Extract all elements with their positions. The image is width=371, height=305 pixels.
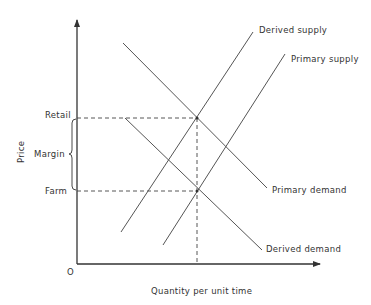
retail-equilibrium-point bbox=[196, 117, 199, 120]
derived-supply-label: Derived supply bbox=[259, 25, 327, 35]
derived-supply-curve bbox=[121, 32, 253, 232]
retail-label: Retail bbox=[45, 110, 71, 120]
primary-supply-curve bbox=[163, 54, 285, 245]
supply-demand-diagram: Retail Margin Farm Price O Quantity per … bbox=[0, 0, 371, 305]
farm-label: Farm bbox=[45, 186, 67, 196]
primary-supply-label: Primary supply bbox=[291, 54, 359, 64]
farm-equilibrium-point bbox=[196, 190, 199, 193]
margin-label: Margin bbox=[34, 149, 65, 159]
derived-demand-curve bbox=[125, 118, 262, 250]
derived-demand-label: Derived demand bbox=[266, 244, 341, 254]
margin-brace bbox=[69, 119, 76, 190]
origin-label: O bbox=[67, 267, 74, 277]
y-axis-label: Price bbox=[16, 141, 26, 163]
x-axis-label: Quantity per unit time bbox=[151, 286, 252, 296]
primary-demand-label: Primary demand bbox=[272, 185, 347, 195]
